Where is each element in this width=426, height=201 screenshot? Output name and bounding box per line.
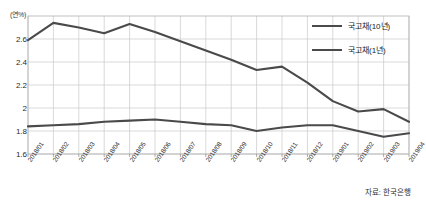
- source-note: 자료: 한국은행: [365, 186, 411, 197]
- legend-label-2: 국고채(1년): [348, 44, 386, 55]
- legend-swatch-2: [312, 49, 342, 51]
- legend-label-1: 국고채(10년): [348, 20, 390, 31]
- legend-swatch-1: [312, 25, 342, 27]
